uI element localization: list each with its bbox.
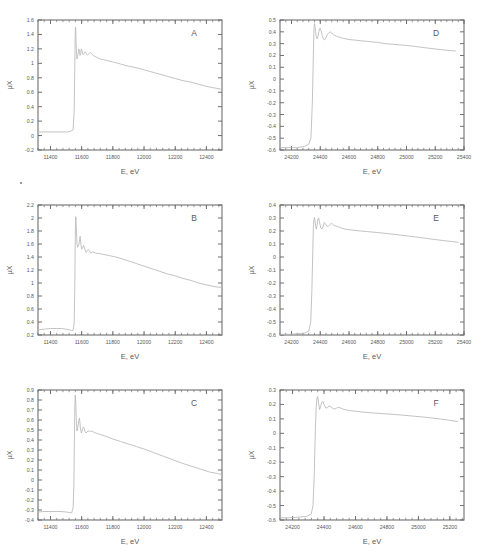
y-tick-label: 0.4 [27,437,34,443]
chart-panel-c: 114001160011800120001220012400-0.4-0.3-0… [0,370,242,554]
y-tick-label: 0.4 [269,29,276,35]
y-tick-label: 0.5 [269,17,276,23]
y-axis-label: μX [6,80,14,89]
x-tick-label: 12400 [199,154,214,160]
y-tick-label: -0.4 [25,517,34,523]
x-tick-label: 12000 [137,339,152,345]
y-tick-label: -0.4 [267,123,276,129]
x-tick-label: 24200 [284,154,299,160]
y-tick-label: -0.1 [267,445,276,451]
figure-container: 114001160011800120001220012400-0.200.20.… [0,0,484,554]
y-tick-label: -0.6 [267,332,276,338]
x-tick-label: 11600 [75,339,89,345]
y-tick-label: 1 [31,280,34,286]
x-tick-label: 24800 [380,524,395,530]
y-tick-label: 0.6 [27,89,34,95]
x-tick-label: 24800 [371,154,386,160]
x-tick-label: 25200 [428,339,443,345]
y-tick-label: 0.2 [269,52,276,58]
x-tick-label: 11800 [106,339,120,345]
x-axis-label: E, eV [363,537,381,546]
y-tick-label: 0.8 [27,397,34,403]
y-tick-label: 1.2 [27,46,34,52]
x-axis-label: E, eV [121,537,139,546]
chart-panel-b: 1140011600118001200012200124000.20.40.60… [0,185,242,370]
y-tick-label: -0.3 [25,507,34,513]
x-tick-label: 12200 [168,339,183,345]
x-tick-label: 25000 [411,524,426,530]
y-tick-label: 1.4 [27,31,34,37]
x-tick-label: 11400 [43,339,57,345]
y-tick-label: -0.5 [267,135,276,141]
y-tick-label: 0.4 [27,319,34,325]
y-tick-label: 1.8 [27,228,34,234]
x-tick-label: 11400 [43,154,57,160]
x-tick-label: 11800 [106,524,120,530]
panel-letter: A [191,28,197,38]
y-axis-label: μX [248,80,256,89]
y-tick-label: 1 [31,60,34,66]
y-tick-label: 0 [31,477,34,483]
x-tick-label: 24400 [313,154,328,160]
x-tick-label: 24200 [284,339,299,345]
plot-frame [280,205,464,335]
y-tick-label: 0 [31,133,34,139]
y-tick-label: 0.4 [269,202,276,208]
chart-panel-d: 24200244002460024800250002520025400-0.6-… [242,0,484,185]
y-tick-label: 0.2 [27,457,34,463]
y-tick-label: 1.4 [27,254,34,260]
x-tick-label: 24600 [342,154,357,160]
x-tick-label: 25200 [443,524,458,530]
x-tick-label: 24400 [313,339,328,345]
y-tick-label: 0 [273,430,276,436]
y-tick-label: 0.6 [27,306,34,312]
y-tick-label: -0.2 [267,100,276,106]
data-curve [280,217,458,334]
x-tick-label: 12200 [168,524,183,530]
y-tick-label: 0.1 [269,64,276,70]
y-tick-label: 0.3 [27,447,34,453]
y-tick-label: 1.6 [27,17,34,23]
data-curve [38,217,222,331]
y-tick-label: 0.1 [269,416,276,422]
y-tick-label: 1.2 [27,267,34,273]
x-tick-label: 11800 [106,154,120,160]
y-tick-label: 0.7 [27,407,34,413]
y-tick-label: 0.6 [27,417,34,423]
plot-frame [280,20,464,150]
data-curve [38,27,222,132]
y-tick-label: -0.6 [267,517,276,523]
x-tick-label: 24400 [317,524,332,530]
chart-panel-f: 242002440024600248002500025200-0.6-0.5-0… [242,370,484,554]
y-tick-label: -0.2 [25,147,34,153]
y-tick-label: -0.3 [267,112,276,118]
x-tick-label: 25400 [457,339,472,345]
panel-letter: B [191,213,197,223]
y-tick-label: 2.2 [27,202,34,208]
panel-letter: C [191,398,197,408]
y-tick-label: -0.5 [267,319,276,325]
plot-frame [38,20,222,150]
plot-frame [280,390,464,520]
data-curve [280,24,455,148]
x-tick-label: 11600 [75,524,89,530]
x-tick-label: 25000 [399,154,414,160]
x-axis-label: E, eV [363,167,381,176]
y-tick-label: 0.3 [269,387,276,393]
y-tick-label: -0.5 [267,503,276,509]
y-tick-label: 0.1 [27,467,34,473]
y-tick-label: 0.2 [269,228,276,234]
x-tick-label: 11400 [43,524,57,530]
y-tick-label: 1.6 [27,241,34,247]
x-tick-label: 12000 [137,524,152,530]
panel-letter: E [433,213,439,223]
y-tick-label: 0.8 [27,75,34,81]
y-axis-label: μX [6,450,14,459]
x-tick-label: 12400 [199,524,214,530]
y-tick-label: 0.3 [269,215,276,221]
x-axis-label: E, eV [121,352,139,361]
y-tick-label: -0.2 [267,459,276,465]
y-tick-label: 0.4 [27,104,34,110]
y-tick-label: 0.2 [27,118,34,124]
y-tick-label: -0.3 [267,474,276,480]
